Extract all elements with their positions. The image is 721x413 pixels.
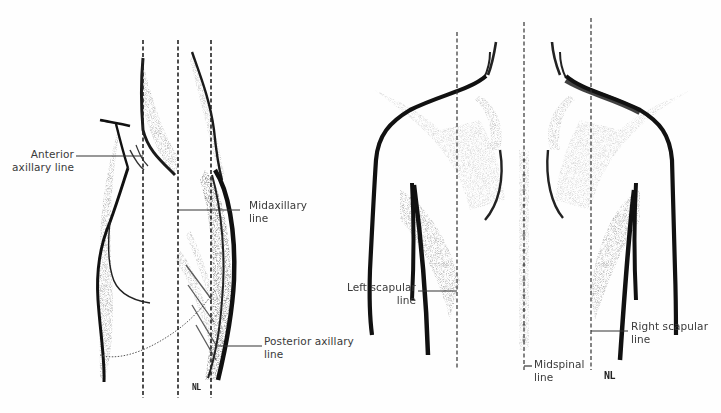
label-line-1: Midspinal — [534, 358, 585, 371]
label-line-2: line — [340, 294, 416, 307]
artist-signature-lateral: NL — [192, 383, 201, 392]
label-line-1: Posterior axillary — [264, 335, 354, 348]
label-line-1: Left scapular — [340, 281, 416, 294]
diagram-artwork — [0, 0, 721, 413]
label-line-2: line — [264, 348, 354, 361]
label-line-2: line — [631, 333, 708, 346]
left-scapular-line-label: Left scapular line — [340, 281, 416, 306]
label-line-1: Anterior — [6, 148, 74, 161]
label-line-1: Right scapular — [631, 320, 708, 333]
posterior-axillary-line-label: Posterior axillary line — [264, 335, 354, 360]
label-line-2: axillary line — [6, 161, 74, 174]
anterior-axillary-line-label: Anterior axillary line — [6, 148, 74, 173]
right-scapular-line-label: Right scapular line — [631, 320, 708, 345]
label-line-2: line — [249, 212, 307, 225]
artist-signature-posterior: NL — [604, 370, 615, 381]
label-line-1: Midaxillary — [249, 199, 307, 212]
midspinal-line-label: Midspinal line — [534, 358, 585, 383]
anatomy-diagram: Anterior axillary line Midaxillary line … — [0, 0, 721, 413]
posterior-back-figure — [370, 18, 690, 370]
midaxillary-line-label: Midaxillary line — [249, 199, 307, 224]
lateral-torso-figure — [76, 40, 262, 398]
label-line-2: line — [534, 371, 585, 384]
